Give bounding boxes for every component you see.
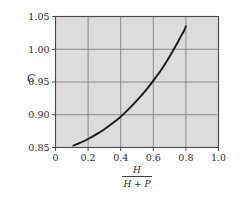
y-axis-title: C: [27, 72, 35, 84]
x-axis-title-denominator: H + P: [122, 179, 151, 189]
y-tick-label: 1.00: [28, 44, 49, 55]
x-tick-label: 0: [52, 152, 58, 163]
chart-figure: 0.850.900.951.001.05 00.20.40.60.81.0 C …: [0, 0, 240, 197]
x-tick-label: 1.0: [211, 152, 226, 163]
x-tick-label: 0.2: [81, 152, 96, 163]
y-tick-label: 0.90: [28, 109, 49, 120]
y-tick-label: 1.05: [28, 11, 49, 22]
x-tick-label: 0.8: [178, 152, 193, 163]
x-axis-title-numerator: H: [132, 165, 141, 175]
y-tick-label: 0.85: [28, 142, 49, 153]
x-tick-label: 0.4: [113, 152, 128, 163]
x-tick-label: 0.6: [146, 152, 161, 163]
chart-canvas: 0.850.900.951.001.05 00.20.40.60.81.0 C …: [0, 0, 240, 197]
